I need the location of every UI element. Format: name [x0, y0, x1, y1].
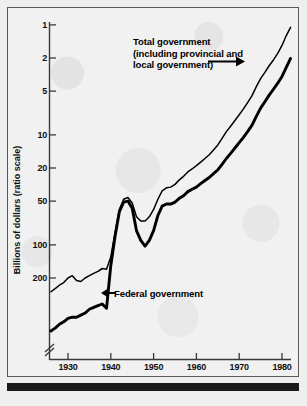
- x-tick-label: 1960: [187, 362, 206, 372]
- y-tick-label: 20: [37, 163, 47, 173]
- annotation-total-government: Total government (including provincial a…: [133, 36, 243, 71]
- y-tick-label: 1: [42, 20, 47, 30]
- chart-figure: 200100502010521 193019401950196019701980…: [0, 0, 307, 406]
- y-tick-marks: [50, 25, 57, 278]
- annotation-total-line2: (including provincial and: [133, 48, 243, 60]
- x-tick-label: 1980: [272, 362, 291, 372]
- y-tick-label: 10: [37, 130, 47, 140]
- x-tick-label: 1930: [58, 362, 77, 372]
- x-tick-label: 1940: [101, 362, 120, 372]
- x-tick-label: 1970: [230, 362, 249, 372]
- y-axis-title: Billions of dollars (ratio scale): [12, 130, 22, 290]
- x-tick-label: 1950: [144, 362, 163, 372]
- y-tick-label: 5: [42, 86, 47, 96]
- annotation-total-line3: local government): [133, 59, 243, 71]
- y-tick-label: 2: [42, 53, 47, 63]
- annotation-federal-government: Federal government: [114, 288, 203, 300]
- annotation-total-line1: Total government: [133, 36, 243, 48]
- y-tick-label: 50: [37, 196, 47, 206]
- x-tick-marks: [68, 353, 282, 360]
- y-tick-label: 100: [33, 240, 47, 250]
- y-tick-label: 200: [33, 273, 47, 283]
